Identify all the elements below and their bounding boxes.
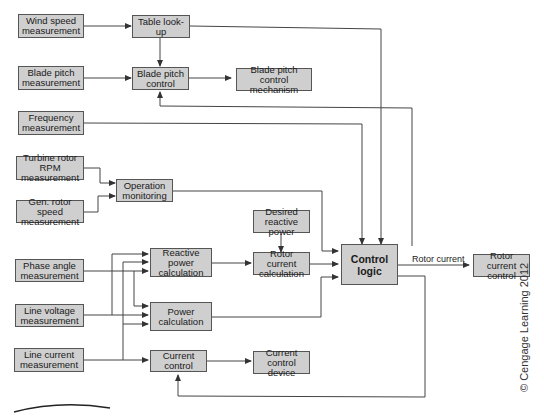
wind-speed-measurement-box: Wind speed measurement: [18, 14, 84, 38]
control-logic-box: Control logic: [341, 244, 398, 285]
rotor-current-label: Rotor current: [412, 254, 465, 264]
operation-monitoring-box: Operation monitoring: [116, 179, 173, 202]
blade-pitch-measurement-box: Blade pitch measurement: [18, 66, 84, 90]
line-voltage-measurement-box: Line voltage measurement: [15, 304, 84, 327]
line-current-measurement-box: Line current measurement: [14, 348, 84, 372]
rotor-current-calculation-box: Rotor current calculation: [253, 252, 310, 275]
reactive-power-calculation-box: Reactive power calculation: [150, 248, 212, 277]
blade-pitch-control-box: Blade pitch control: [132, 67, 189, 90]
desired-reactive-power-box: Desired reactive power: [253, 210, 310, 233]
table-lookup-box: Table look-up: [132, 15, 190, 38]
block-diagram: Wind speed measurement Table look-up Bla…: [0, 0, 544, 416]
turbine-rotor-rpm-box: Turbine rotor RPM measurement: [16, 156, 84, 180]
copyright-notice: © Cengage Learning 2012: [518, 263, 530, 392]
gen-rotor-speed-box: Gen. rotor speed measurement: [16, 200, 84, 223]
frequency-measurement-box: Frequency measurement: [18, 111, 84, 135]
power-calculation-box: Power calculation: [150, 302, 212, 331]
current-control-box: Current control: [150, 350, 207, 372]
phase-angle-measurement-box: Phase angle measurement: [15, 259, 84, 282]
blade-pitch-control-mechanism-box: Blade pitch control mechanism: [236, 68, 312, 91]
current-control-device-box: Current control device: [253, 351, 310, 374]
